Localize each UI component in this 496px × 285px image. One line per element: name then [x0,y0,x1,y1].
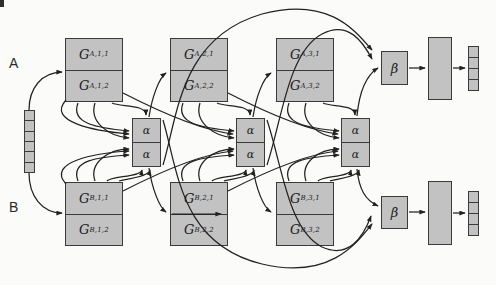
g-subscript: B,1,2 [89,226,109,234]
g-box-b3: GB,3,1 GB,3,2 [276,182,334,246]
edge-gb2-up-alpha2-bottom [224,170,254,181]
g-cell-b12: GB,1,2 [66,214,122,246]
g-subscript: A,1,2 [89,82,108,90]
edge-ga3-to-alpha3 [305,103,339,138]
edge-input-to-gb1 [29,173,62,213]
alpha-stack-3: α α [341,118,370,167]
g-label: G [79,79,89,92]
g-subscript: A,1,1 [89,50,108,58]
edge-gb1-to-alpha1 [77,155,129,181]
row-label-b: B [9,199,18,215]
alpha-cell: α [237,119,264,142]
edge-gb2-up-alpha2-bottom [212,170,246,181]
g-label: G [290,192,300,205]
edge-alpha1-to-ga2 [149,73,166,117]
edge-gb3-to-alpha3 [288,155,339,181]
g-label: G [184,79,194,92]
edge-ga3-to-alpha3 [288,103,339,131]
edge-left-cross-alpha1 [61,100,129,134]
edge-ga3-down-alpha3-top [323,103,355,115]
g-cell-b31: GB,3,1 [277,183,333,214]
edge-alpha2-to-gb3 [253,168,271,212]
g-cell-a22: GA,2,2 [171,70,227,102]
output-vector-cell [469,192,478,202]
output-vector-cell [469,202,478,213]
input-vector-cell [25,162,34,172]
output-vector-bottom [468,191,479,236]
page-corner-mark [0,0,4,7]
g-subscript: B,2,1 [194,194,214,202]
g-subscript: A,3,2 [300,82,319,90]
alpha-cell: α [133,142,160,166]
g-subscript: A,2,1 [194,50,213,58]
g-cell-a32: GA,3,2 [277,70,333,102]
input-vector [24,110,35,173]
generative-encoding-figure: A B GA,1,1 GA,1,2 GA,2,1 GA,2,2 GA,3,1 G… [0,0,496,285]
g-label: G [184,48,194,61]
alpha-cell: α [237,142,264,166]
hidden-layer-top [428,37,452,100]
g-label: G [184,192,194,205]
g-cell-b11: GB,1,1 [66,183,122,214]
edge-alpha2-to-ga3 [253,73,271,117]
alpha-cell: α [342,142,369,166]
edge-alpha3-to-betatop [357,68,378,116]
edge-gb3-up-alpha3-bottom [318,170,351,181]
input-vector-cell [25,141,34,151]
edge-ga1-down-alpha1-top [112,103,146,115]
edge-gb3-up-alpha3-bottom [330,170,359,181]
g-cell-a11: GA,1,1 [66,39,122,70]
input-vector-cell [25,131,34,141]
g-box-b1: GB,1,1 GB,1,2 [65,182,123,246]
g-cell-b22: GB,2,2 [171,214,227,246]
g-subscript: B,1,1 [89,194,109,202]
g-subscript: B,2,2 [194,226,214,234]
edge-ga1-to-alpha1 [77,103,129,131]
g-cell-a31: GA,3,1 [277,39,333,70]
output-vector-top [468,46,479,91]
g-label: G [79,192,89,205]
edge-ga2-to-alpha2 [199,103,234,138]
edge-input-to-ga1 [29,72,62,110]
output-vector-cell [469,213,478,224]
edge-alpha3-to-betabottom [357,169,378,206]
hidden-layer-bottom [428,181,452,245]
g-subscript: B,3,1 [300,194,320,202]
g-cell-b32: GB,3,2 [277,214,333,246]
g-label: G [290,79,300,92]
alpha-stack-2: α α [236,118,265,167]
edge-gb2-to-alpha2 [182,155,234,181]
g-label: G [79,223,89,236]
input-vector-cell [25,111,34,120]
g-box-b2: GB,2,1 GB,2,2 [170,182,228,246]
output-vector-cell [469,47,478,57]
output-vector-cell [469,224,478,235]
g-label: G [184,223,194,236]
edge-ga2-to-alpha2 [182,103,234,131]
alpha-cell: α [133,119,160,142]
alpha-cell: α [342,119,369,142]
output-vector-cell [469,57,478,68]
g-subscript: A,3,1 [300,50,319,58]
input-vector-cell [25,151,34,161]
g-cell-a12: GA,1,2 [66,70,122,102]
edge-ga2-down-alpha2-top [217,103,250,115]
edge-ga1-to-alpha1 [94,103,129,138]
beta-box-top: β [381,51,408,85]
g-label: G [290,48,300,61]
alpha-stack-1: α α [132,118,161,167]
beta-box-bottom: β [381,196,408,229]
output-vector-cell [469,68,478,79]
row-label-a: A [9,55,18,71]
g-box-a3: GA,3,1 GA,3,2 [276,38,334,102]
g-box-a1: GA,1,1 GA,1,2 [65,38,123,102]
edge-left-cross-alpha1 [61,151,129,184]
output-vector-cell [469,79,478,90]
g-cell-a21: GA,2,1 [171,39,227,70]
edge-gb2-to-alpha2 [199,149,234,181]
edge-gb1-up-alpha1-bottom [119,170,150,181]
g-label: G [290,223,300,236]
edge-gb1-up-alpha1-bottom [107,170,142,181]
g-subscript: A,2,2 [194,82,213,90]
input-vector-cell [25,120,34,130]
